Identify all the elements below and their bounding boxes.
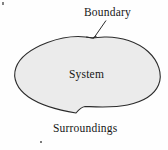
boundary-label: Boundary bbox=[84, 7, 131, 19]
scan-speck-bottom bbox=[40, 141, 42, 143]
scan-speck-top-left bbox=[2, 2, 4, 5]
boundary-leader-line bbox=[94, 21, 107, 39]
surroundings-label: Surroundings bbox=[53, 123, 117, 135]
system-label: System bbox=[69, 69, 104, 81]
figure-container: Boundary System Surroundings bbox=[0, 0, 168, 150]
